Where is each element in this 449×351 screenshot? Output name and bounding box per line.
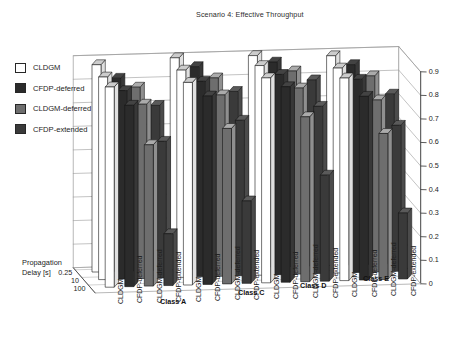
value-axis-tick: 0.9 [429,67,439,76]
category-axis-label: CFDP-extended [332,248,339,298]
bar [262,73,275,283]
group-label: Class C [238,288,264,297]
value-axis-tick: 0.6 [429,137,439,146]
bar [105,82,118,287]
three-d-plot-area [0,0,449,351]
value-axis-tick: 0.5 [429,161,439,170]
category-axis-label: CFDP-deferred [136,256,143,303]
chart-title: Scenario 4: Effective Throughput [196,10,304,19]
value-axis-tick: 0.2 [429,232,439,241]
value-axis-tick: 0 [429,279,433,288]
category-axis-label: CLDGM-deferred [390,242,397,296]
plot-svg [0,0,449,351]
legend-swatch-cldgm-deferred [15,104,26,114]
legend-swatch-cfdp-extended [15,124,26,134]
category-axis-label: CLDGM [273,274,280,299]
value-axis-tick: 0.7 [429,114,439,123]
bar [340,73,353,280]
category-axis-label: CFDP-deferred [371,249,378,296]
group-label: Class E [363,274,389,283]
legend-item: CFDP-deferred [15,83,91,94]
legend-label: CLDGM [33,63,60,72]
legend-item: CLDGM-deferred [15,103,91,114]
value-axis-tick: 0.8 [429,90,439,99]
depth-axis-title-line1: Propagation [22,258,62,268]
legend-item: CFDP-extended [15,124,91,135]
category-axis-label: CLDGM [351,272,358,297]
bar [183,78,196,285]
category-axis-label: CLDGM-deferred [312,245,319,299]
legend-swatch-cldgm [15,63,26,73]
category-axis-label: CFDP-extended [175,252,182,302]
legend-label: CFDP-extended [33,125,87,134]
legend-item: CLDGM [15,62,91,73]
category-axis-label: CLDGM [195,276,202,301]
value-axis-tick: 0.1 [429,255,439,264]
category-axis-label: CLDGM-deferred [156,249,163,303]
value-axis-tick: 0.4 [429,185,439,194]
category-axis-label: CLDGM [117,279,124,304]
depth-axis-tick: 100 [46,284,86,293]
legend-swatch-cfdp-deferred [15,83,26,93]
chart-container: Scenario 4: Effective Throughput CLDGM C… [0,0,449,351]
legend-label: CFDP-deferred [33,84,84,93]
category-axis-label: CFDP-extended [410,245,417,295]
category-axis-label: CFDP-deferred [214,254,221,301]
group-label: Class D [300,281,326,290]
group-label: Class A [160,297,186,306]
category-axis-label: CFDP-deferred [292,251,299,298]
value-axis-tick: 0.3 [429,208,439,217]
legend-label: CLDGM-deferred [33,104,91,113]
legend: CLDGM CFDP-deferred CLDGM-deferred CFDP-… [15,62,91,144]
